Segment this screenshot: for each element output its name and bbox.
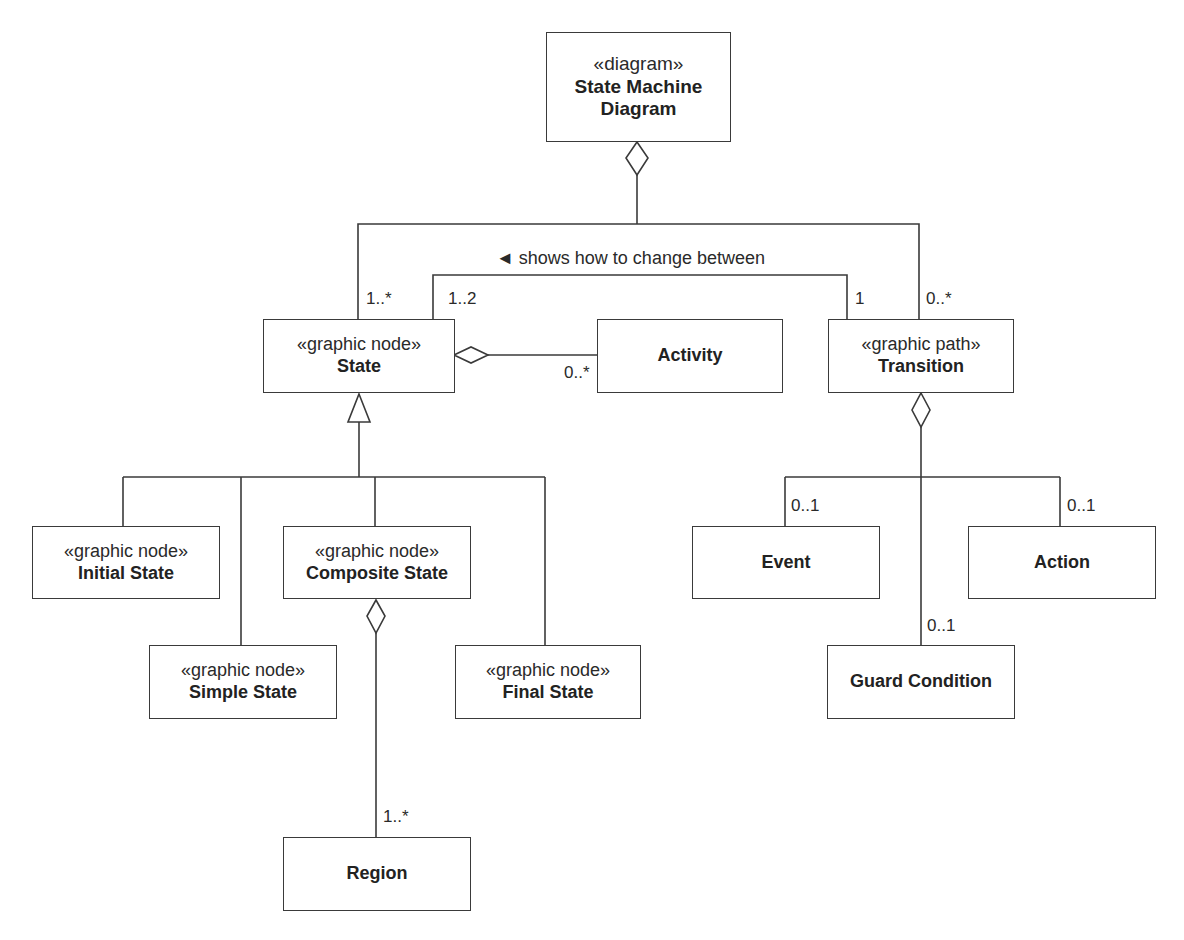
multiplicity-label: 1..* (383, 807, 409, 827)
stereotype-label: «graphic node» (486, 660, 610, 682)
class-guard-condition[interactable]: Guard Condition (827, 645, 1015, 719)
class-event[interactable]: Event (692, 526, 880, 599)
class-name: Activity (657, 345, 722, 367)
stereotype-label: «diagram» (594, 53, 684, 76)
multiplicity-label: 0..1 (927, 616, 955, 636)
class-name: Final State (502, 682, 593, 704)
stereotype-label: «graphic node» (315, 541, 439, 563)
multiplicity-label: 0..1 (791, 496, 819, 516)
multiplicity-label: 0..1 (1067, 496, 1095, 516)
multiplicity-label: 0..* (926, 289, 952, 309)
association-label: ◄ shows how to change between (496, 248, 765, 269)
class-name: Composite State (306, 563, 448, 585)
state-transition-line (433, 275, 847, 319)
class-activity[interactable]: Activity (597, 319, 783, 393)
class-action[interactable]: Action (968, 526, 1156, 599)
stereotype-label: «graphic node» (64, 541, 188, 563)
diagram-state-line (358, 224, 919, 319)
class-name: State (337, 356, 381, 378)
multiplicity-label: 0..* (564, 363, 590, 383)
class-name: Transition (878, 356, 964, 378)
class-final-state[interactable]: «graphic node» Final State (455, 645, 641, 719)
class-initial-state[interactable]: «graphic node» Initial State (32, 526, 220, 599)
stereotype-label: «graphic node» (297, 334, 421, 356)
multiplicity-label: 1..2 (448, 289, 476, 309)
class-name: Action (1034, 552, 1090, 574)
class-name: Guard Condition (850, 671, 992, 693)
class-name: Event (761, 552, 810, 574)
class-state[interactable]: «graphic node» State (263, 319, 455, 393)
class-region[interactable]: Region (283, 837, 471, 911)
generalization-triangle-icon (348, 394, 370, 422)
class-name: Region (347, 863, 408, 885)
class-composite-state[interactable]: «graphic node» Composite State (283, 526, 471, 599)
multiplicity-label: 1 (855, 289, 864, 309)
class-simple-state[interactable]: «graphic node» Simple State (149, 645, 337, 719)
class-name: Simple State (189, 682, 297, 704)
stereotype-label: «graphic node» (181, 660, 305, 682)
aggregation-diamond-icon (454, 347, 488, 363)
class-transition[interactable]: «graphic path» Transition (828, 319, 1014, 393)
class-state-machine-diagram[interactable]: «diagram» State Machine Diagram (546, 32, 731, 142)
class-name: Initial State (78, 563, 174, 585)
aggregation-diamond-icon (912, 393, 930, 427)
aggregation-diamond-icon (367, 600, 385, 633)
stereotype-label: «graphic path» (861, 334, 980, 356)
class-name: Diagram (600, 98, 676, 121)
class-name: State Machine (575, 76, 703, 99)
aggregation-diamond-icon (626, 142, 648, 175)
multiplicity-label: 1..* (366, 289, 392, 309)
